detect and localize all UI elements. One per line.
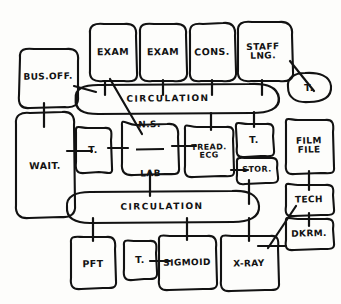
node-shape-sigmoid: [159, 235, 217, 290]
node-shape-film-file: [286, 119, 334, 174]
node-shape-pft: [71, 237, 116, 289]
node-shape-circulation-bottom: [67, 191, 259, 223]
node-shape-tread-ecg: [185, 125, 234, 177]
node-shape-wait: [16, 112, 75, 218]
node-shape-exam-2: [140, 24, 187, 82]
node-shape-bus-off: [19, 49, 78, 108]
connector-tech-xray-diagonal: [268, 206, 296, 248]
node-shape-t-top: [288, 73, 331, 102]
node-shape-cons: [190, 23, 236, 81]
node-shape-t-mid: [236, 123, 274, 157]
diagram-strokes: [0, 0, 341, 304]
node-shape-ns-lab: [122, 122, 179, 175]
node-shape-staff-lng: [238, 22, 293, 81]
node-shape-exam-1: [90, 24, 137, 82]
node-shape-circulation-top: [76, 84, 279, 114]
bubble-diagram-canvas: BUS.OFF. EXAM EXAM CONS. STAFF LNG. T. C…: [0, 0, 341, 304]
connector-exam1-nslab-diagonal: [110, 79, 142, 134]
